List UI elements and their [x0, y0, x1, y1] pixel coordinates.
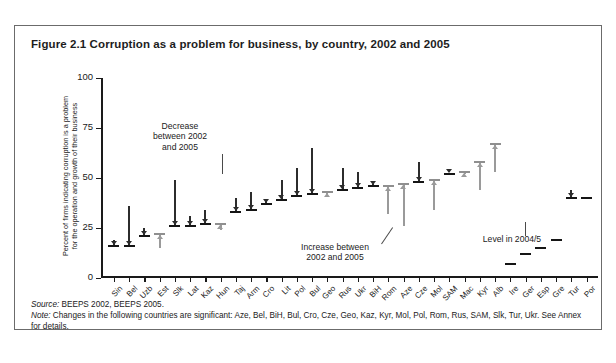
marker-arrowhead — [157, 235, 163, 239]
x-tick-Por — [587, 278, 588, 282]
marker-cap-2005 — [139, 235, 150, 237]
x-tick-BiH — [373, 278, 374, 282]
marker-arrowhead — [248, 205, 254, 209]
x-tick-Ire — [510, 278, 511, 282]
marker-arrowhead — [568, 193, 574, 197]
x-tick-Pol — [297, 278, 298, 282]
x-tick-Est — [160, 278, 161, 282]
marker-arrowhead — [492, 145, 498, 149]
x-tick-Gre — [556, 278, 557, 282]
note-text: Changes in the following countries are s… — [31, 311, 581, 331]
annotation-decrease: Decrease between 2002 and 2005 — [137, 121, 223, 152]
level-cap — [535, 247, 546, 249]
x-tick-Rom — [388, 278, 389, 282]
x-tick-Slk — [175, 278, 176, 282]
x-tick-Bul — [312, 278, 313, 282]
y-tick-mark — [96, 278, 101, 279]
marker-arrowhead — [217, 225, 223, 229]
marker-arrowhead — [431, 181, 437, 185]
x-tick-Alb — [495, 278, 496, 282]
marker-arrowhead — [309, 189, 315, 193]
marker-arrowhead — [111, 241, 117, 245]
x-tick-Hun — [221, 278, 222, 282]
marker-cap-2005 — [230, 211, 241, 213]
x-tick-Tur — [571, 278, 572, 282]
x-tick-Esp — [541, 278, 542, 282]
level-cap — [505, 263, 516, 265]
marker-cap-2005 — [368, 185, 379, 187]
x-tick-Kaz — [205, 278, 206, 282]
y-axis-title-line-2: for the operation and growth of their bu… — [71, 76, 80, 276]
figure-note: Note: Changes in the following countries… — [31, 310, 589, 332]
marker-arrowhead — [324, 193, 330, 197]
marker-cap-2005 — [352, 187, 363, 189]
x-tick-Aze — [404, 278, 405, 282]
marker-arrowhead — [141, 231, 147, 235]
marker-arrowhead — [461, 173, 467, 177]
annotation-level: Level in 2004/5 — [467, 234, 557, 244]
marker-cap-2005 — [108, 245, 119, 247]
marker-cap-2005 — [413, 181, 424, 183]
x-tick-Mol — [434, 278, 435, 282]
x-tick-Bel — [129, 278, 130, 282]
x-tick-Ger — [526, 278, 527, 282]
x-tick-Ukr — [358, 278, 359, 282]
marker-arrowhead — [416, 177, 422, 181]
marker-cap-2005 — [200, 223, 211, 225]
x-tick-Lit — [282, 278, 283, 282]
figure-notes: Source: BEEPS 2002, BEEPS 2005. Note: Ch… — [31, 299, 589, 333]
annotation-level-leader — [525, 222, 526, 236]
marker-arrowhead — [370, 181, 376, 185]
marker-arrowhead — [355, 183, 361, 187]
marker-cap-2005 — [307, 193, 318, 195]
x-tick-Cze — [419, 278, 420, 282]
x-tick-SAM — [449, 278, 450, 282]
x-tick-Mac — [465, 278, 466, 282]
marker-cap-2005 — [169, 225, 180, 227]
x-tick-Uzb — [144, 278, 145, 282]
y-tick-label: 50 — [82, 171, 93, 182]
note-label: Note: — [31, 311, 51, 320]
marker-arrowhead — [126, 241, 132, 245]
marker-cap-2005 — [124, 245, 135, 247]
marker-stem — [403, 184, 405, 226]
marker-cap-2005 — [185, 225, 196, 227]
level-cap — [520, 253, 531, 255]
marker-cap-2005 — [337, 189, 348, 191]
figure-container: Figure 2.1 Corruption as a problem for b… — [14, 25, 602, 330]
x-tick-Geo — [327, 278, 328, 282]
marker-stem — [311, 148, 313, 194]
figure-source: Source: BEEPS 2002, BEEPS 2005. — [31, 299, 589, 310]
marker-arrowhead — [187, 221, 193, 225]
marker-cap-2005 — [246, 209, 257, 211]
marker-cap-2005 — [261, 203, 272, 205]
marker-cap-2005 — [444, 173, 455, 175]
x-tick-Taj — [236, 278, 237, 282]
y-tick-label: 0 — [88, 271, 93, 282]
x-tick-Lat — [190, 278, 191, 282]
marker-arrowhead — [446, 169, 452, 173]
marker-cap-2005 — [276, 199, 287, 201]
marker-arrowhead — [400, 185, 406, 189]
marker-arrowhead — [477, 163, 483, 167]
marker-cap-2005 — [291, 195, 302, 197]
figure-title: Figure 2.1 Corruption as a problem for b… — [31, 38, 450, 50]
x-tick-Arm — [251, 278, 252, 282]
level-cap — [581, 197, 592, 199]
marker-arrowhead — [172, 221, 178, 225]
marker-cap-2005 — [566, 197, 577, 199]
marker-arrowhead — [339, 185, 345, 189]
marker-arrowhead — [202, 219, 208, 223]
y-tick-label: 100 — [77, 71, 93, 82]
marker-stem — [174, 180, 176, 226]
marker-arrowhead — [294, 191, 300, 195]
annotation-decrease-leader — [222, 154, 223, 174]
y-axis-title: Percent of firms indicating corruption i… — [63, 0, 75, 78]
marker-arrowhead — [233, 207, 239, 211]
source-label: Source: — [31, 300, 59, 309]
marker-arrowhead — [385, 187, 391, 191]
annotation-increase: Increase between 2002 and 2005 — [283, 242, 387, 263]
marker-arrowhead — [278, 195, 284, 199]
y-tick-label: 75 — [82, 121, 93, 132]
y-tick-label: 25 — [82, 221, 93, 232]
